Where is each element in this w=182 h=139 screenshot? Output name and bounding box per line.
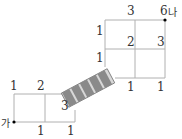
lower-top-label-2: 2	[37, 80, 45, 92]
upper-left-label-2: 1	[96, 52, 104, 64]
upper-left-label-1: 1	[96, 25, 104, 37]
bridge-icon	[61, 69, 114, 108]
upper-top-label-2: 6	[160, 5, 168, 17]
start-label: 가	[1, 118, 10, 130]
diagram-canvas	[0, 0, 182, 139]
upper-bottom-label-2: 1	[157, 81, 165, 93]
upper-grid	[105, 20, 165, 78]
lower-bottom-label-2: 1	[67, 125, 75, 137]
lower-top-label-1: 1	[10, 80, 18, 92]
lower-inner-label: 3	[61, 100, 69, 112]
upper-top-label-1: 3	[127, 5, 135, 17]
upper-inner-label-1: 2	[127, 36, 135, 48]
upper-bottom-label-1: 1	[127, 81, 135, 93]
end-label: 나	[168, 7, 177, 19]
end-point	[163, 18, 166, 21]
upper-inner-label-2: 3	[157, 36, 165, 48]
lower-bottom-label-1: 1	[37, 125, 45, 137]
start-point	[12, 120, 15, 123]
